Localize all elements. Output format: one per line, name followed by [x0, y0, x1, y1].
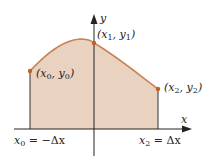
point-x1-y1	[92, 41, 96, 45]
x-axis-label: x	[181, 114, 187, 125]
rest: = −Δx	[25, 134, 65, 147]
x-tick-label-x0: x0 = −Δx	[14, 135, 65, 148]
sub: 1	[126, 33, 131, 42]
sub: 2	[193, 86, 198, 95]
point-label-x2-y2: (x2, y2)	[164, 82, 202, 95]
y-axis-arrow-icon	[91, 14, 98, 24]
sub: 1	[108, 33, 113, 42]
x-tick-label-x2: x2 = Δx	[139, 135, 181, 148]
x-axis-arrow-icon	[182, 126, 192, 133]
y-axis-label: y	[100, 13, 106, 24]
point-label-x1-y1: (x1, y1)	[97, 29, 135, 42]
sub: 2	[175, 86, 180, 95]
sub: 0	[65, 72, 70, 81]
point-x0-y0	[28, 69, 32, 73]
point-label-x0-y0: (x0, y0)	[36, 68, 74, 81]
rest: = Δx	[150, 134, 180, 147]
diagram-canvas: y x (x0, y0) (x1, y1) (x2, y2) x0 = −Δx …	[0, 0, 211, 162]
sub: 0	[47, 72, 52, 81]
point-x2-y2	[156, 87, 160, 91]
